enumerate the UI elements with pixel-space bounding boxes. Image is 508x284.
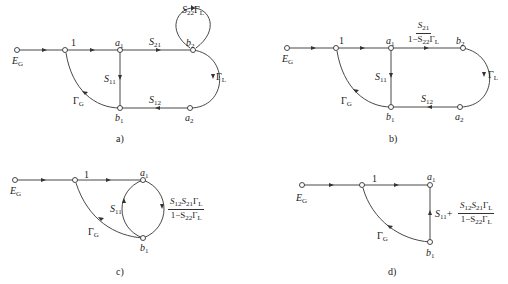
label-gamma-l: ΓL [488,70,498,83]
label-s11: S11 [375,72,387,85]
label-s11: S11 [104,74,116,87]
label-one: 1 [372,174,377,184]
label-a2: a2 [185,113,194,126]
label-gamma-g: ΓG [73,96,84,109]
label-eg: EG [10,186,21,199]
label-s12: S12 [149,95,161,108]
label-a1: a1 [427,172,436,185]
label-b1: b1 [426,248,435,261]
caption-b: b) [389,133,397,144]
label-s12: S12 [421,94,433,107]
label-gamma-l: ΓL [216,72,226,85]
label-a1: a1 [140,168,149,181]
label-one: 1 [84,170,89,180]
label-reflection-term: S12S21ΓL 1−S22ΓL [168,196,204,223]
panel-b-graph [285,46,490,110]
label-a2: a2 [455,112,464,125]
label-reflection-term: S12S21ΓL 1−S22ΓL [458,200,494,227]
label-b2: b2 [186,38,195,51]
caption-c: c) [116,266,124,277]
label-one: 1 [71,38,76,48]
label-s11: S11 [110,204,122,217]
label-gamma-g: ΓG [88,227,99,240]
panel-a-graph [15,5,220,111]
label-s21-over-denominator: S21 1−S22ΓL [406,20,441,47]
label-b1: b1 [386,112,395,125]
label-s11-plus: S11+ [435,209,452,222]
panel-d-graph [300,183,433,245]
caption-a: a) [116,133,124,144]
node-a2 [188,106,193,111]
label-b1: b1 [140,243,149,256]
label-one: 1 [339,36,344,46]
label-a1: a1 [115,38,124,51]
caption-d: d) [388,266,396,277]
node-eg [15,48,20,53]
label-gamma-g: ΓG [377,231,388,244]
node-1 [63,48,68,53]
label-self-loop: S22ΓL [182,5,204,18]
label-eg: EG [296,193,307,206]
node-b1 [118,106,123,111]
label-a1: a1 [386,36,395,49]
label-eg: EG [282,54,293,67]
label-gamma-g: ΓG [341,96,352,109]
label-b2: b2 [456,36,465,49]
label-s21: S21 [149,37,161,50]
label-eg: EG [12,56,23,69]
label-b1: b1 [115,113,124,126]
